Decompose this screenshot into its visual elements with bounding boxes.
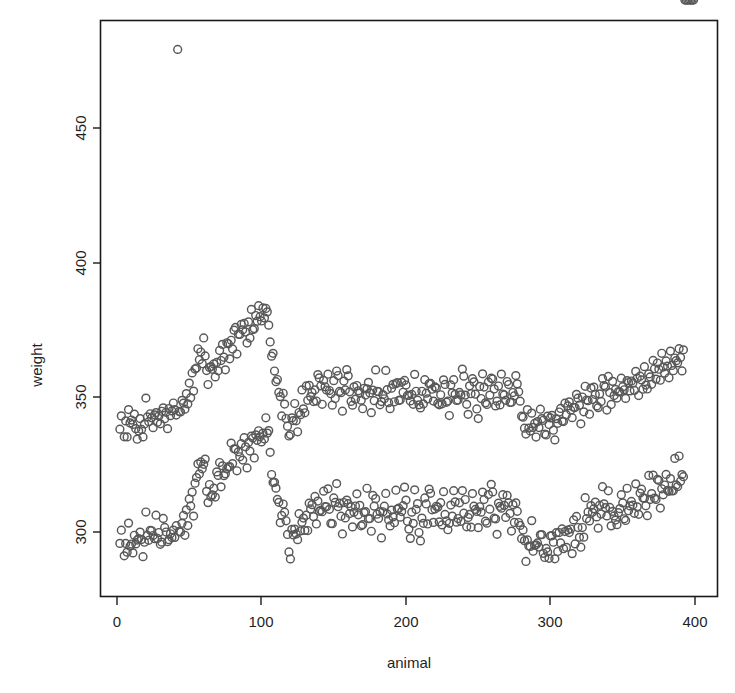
data-point — [392, 486, 400, 494]
data-point — [229, 345, 237, 353]
data-point — [363, 484, 371, 492]
data-point — [339, 530, 347, 538]
data-point — [353, 490, 361, 498]
data-point — [440, 488, 448, 496]
data-point — [266, 448, 274, 456]
data-point — [678, 367, 686, 375]
data-point — [617, 491, 625, 499]
data-point — [474, 415, 482, 423]
scatter-plot-figure: 300 350 400 450 weight 0 100 200 300 400… — [0, 0, 735, 693]
data-point — [125, 519, 133, 527]
data-point — [139, 553, 147, 561]
y-tick-label-450: 450 — [72, 115, 89, 140]
data-point — [129, 549, 137, 557]
data-point — [250, 454, 258, 462]
data-point — [656, 504, 664, 512]
data-point — [604, 487, 612, 495]
data-point — [281, 400, 289, 408]
data-point — [339, 407, 347, 415]
x-tick-label-0: 0 — [113, 613, 121, 630]
plot-canvas: 300 350 400 450 weight 0 100 200 300 400… — [0, 0, 735, 693]
data-point — [295, 510, 303, 518]
data-point — [643, 512, 651, 520]
data-point — [159, 515, 167, 523]
data-point — [313, 520, 321, 528]
y-tick-label-400: 400 — [72, 250, 89, 275]
data-point — [265, 321, 273, 329]
y-axis-tick-labels: 300 350 400 450 — [72, 115, 89, 544]
data-point — [486, 505, 494, 513]
data-point — [333, 480, 341, 488]
data-point — [349, 523, 357, 531]
x-axis-ticks — [117, 597, 695, 605]
data-point — [594, 524, 602, 532]
data-point — [268, 471, 276, 479]
x-tick-label-400: 400 — [682, 613, 707, 630]
data-point — [142, 508, 150, 516]
data-point — [190, 512, 198, 520]
data-point — [149, 424, 157, 432]
data-point — [508, 527, 516, 535]
data-point — [204, 381, 212, 389]
data-point — [437, 391, 445, 399]
data-point — [266, 338, 274, 346]
data-point — [487, 480, 495, 488]
data-point — [233, 467, 241, 475]
data-points-layer — [116, 0, 697, 565]
data-point — [577, 420, 585, 428]
x-tick-label-300: 300 — [537, 613, 562, 630]
data-point — [415, 529, 423, 537]
data-point — [450, 487, 458, 495]
data-point — [516, 397, 524, 405]
x-tick-label-100: 100 — [248, 613, 273, 630]
data-point — [185, 379, 193, 387]
data-point — [372, 366, 380, 374]
data-point — [273, 376, 281, 384]
data-point — [473, 405, 481, 413]
data-point — [411, 486, 419, 494]
data-point — [460, 372, 468, 380]
data-point — [330, 377, 338, 385]
data-point — [116, 425, 124, 433]
data-point — [382, 490, 390, 498]
data-point — [528, 517, 536, 525]
data-point — [551, 436, 559, 444]
data-point — [479, 370, 487, 378]
data-point — [233, 350, 241, 358]
data-point — [648, 380, 656, 388]
data-point — [480, 496, 488, 504]
data-point — [117, 412, 125, 420]
data-point — [367, 527, 375, 535]
data-point — [532, 433, 540, 441]
data-point — [568, 550, 576, 558]
x-axis-title: animal — [387, 654, 431, 671]
data-point — [382, 367, 390, 375]
data-point — [378, 534, 386, 542]
data-point — [658, 349, 666, 357]
x-tick-label-200: 200 — [393, 613, 418, 630]
data-point — [669, 367, 677, 375]
data-point — [401, 483, 409, 491]
data-point — [417, 537, 425, 545]
data-point — [464, 410, 472, 418]
data-point — [190, 387, 198, 395]
y-tick-label-300: 300 — [72, 519, 89, 544]
data-point — [340, 377, 348, 385]
data-point — [117, 526, 125, 534]
data-point — [406, 534, 414, 542]
data-point — [142, 394, 150, 402]
data-point — [581, 494, 589, 502]
y-axis-ticks — [93, 128, 100, 532]
data-point — [200, 334, 208, 342]
data-point — [536, 405, 544, 413]
data-point — [262, 414, 270, 422]
data-point — [497, 370, 505, 378]
data-point — [294, 428, 302, 436]
data-point — [622, 395, 630, 403]
data-point — [513, 380, 521, 388]
data-point — [217, 483, 225, 491]
data-point — [164, 425, 172, 433]
data-point — [623, 484, 631, 492]
data-point — [411, 370, 419, 378]
data-point — [607, 401, 615, 409]
